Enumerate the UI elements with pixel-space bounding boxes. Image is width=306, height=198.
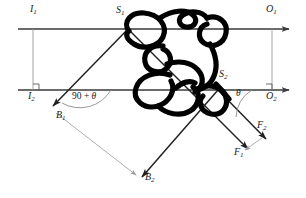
label-i1: I1: [30, 4, 37, 14]
angle-label-left: 90 + θ: [72, 92, 96, 102]
b1-b2-construction-line: [56, 113, 136, 175]
b2-force-vector: [142, 90, 218, 177]
horizontal-ray-group: [18, 29, 289, 90]
label-o2: O2: [266, 91, 277, 101]
knot-force-diagram: I1 I2 O1 O2 S1 S2 B1 B2 F1 F2 90 + θ θ: [0, 0, 306, 198]
label-i2: I2: [28, 91, 35, 101]
separation-tick-group: [33, 29, 272, 90]
label-s1: S1: [116, 5, 125, 15]
label-s2: S2: [219, 69, 228, 79]
f2-f1-construction-line: [245, 138, 262, 150]
knot-loop-upper-right: [199, 17, 226, 46]
label-o1: O1: [266, 4, 277, 14]
knot-strand-tail: [216, 84, 229, 99]
knot-strand-upper-spine: [160, 11, 207, 27]
tangled-knot-curve: [127, 11, 229, 114]
label-b2: B2: [145, 172, 155, 182]
diagram-canvas: [0, 0, 306, 198]
label-f1: F1: [234, 147, 244, 157]
label-f2: F2: [257, 120, 267, 130]
knot-strand-right-connector: [196, 44, 216, 90]
construction-line-group: [56, 113, 262, 175]
left-right-angle-marker: [33, 84, 39, 90]
angle-label-right: θ: [236, 89, 241, 99]
label-b1: B1: [56, 110, 66, 120]
